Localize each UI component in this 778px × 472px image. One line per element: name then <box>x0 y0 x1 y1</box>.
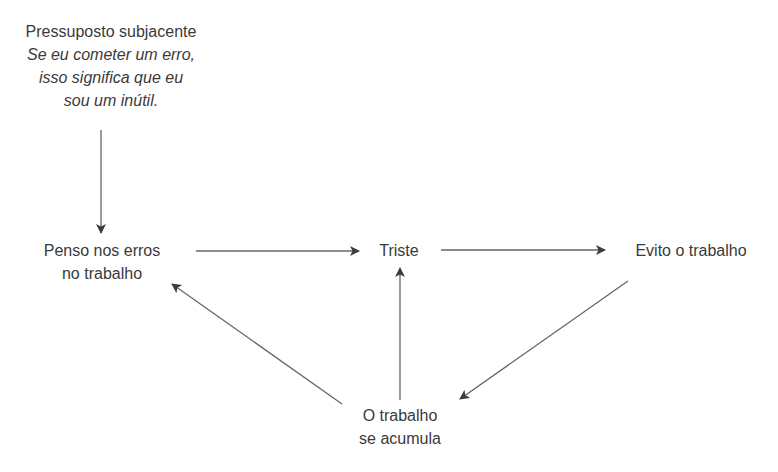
accumulate-line-1: O trabalho <box>330 404 470 427</box>
assumption-line-3: sou um inútil. <box>0 89 222 112</box>
assumption-title: Pressuposto subjacente <box>0 20 222 43</box>
accumulate-line-2: se acumula <box>330 427 470 450</box>
assumption-line-1: Se eu cometer um erro, <box>0 43 222 66</box>
node-think-about-errors: Penso nos erros no trabalho <box>20 239 184 285</box>
node-avoid-work: Evito o trabalho <box>616 239 766 262</box>
think-line-2: no trabalho <box>20 262 184 285</box>
assumption-line-2: isso significa que eu <box>0 66 222 89</box>
arrow-accumulate-to-think <box>172 284 342 404</box>
think-line-1: Penso nos erros <box>20 239 184 262</box>
avoid-label: Evito o trabalho <box>616 239 766 262</box>
arrow-avoid-to-accumulate <box>460 281 628 399</box>
sad-label: Triste <box>362 239 436 262</box>
node-sad: Triste <box>362 239 436 262</box>
node-underlying-assumption: Pressuposto subjacente Se eu cometer um … <box>0 20 222 112</box>
node-work-accumulates: O trabalho se acumula <box>330 404 470 450</box>
